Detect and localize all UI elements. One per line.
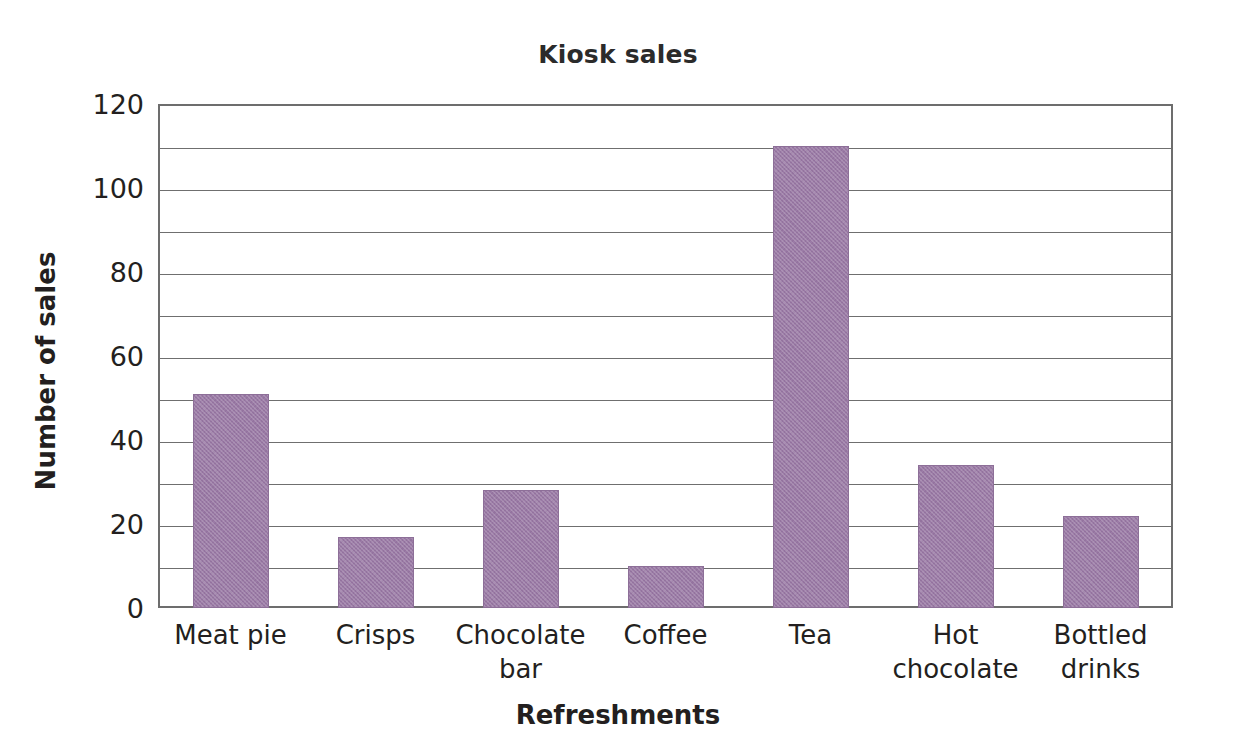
x-axis-tick-label: Meat pie xyxy=(158,618,303,652)
x-axis-tick-label-line: Crisps xyxy=(303,618,448,652)
bar-slot xyxy=(593,104,738,608)
y-axis-title: Number of sales xyxy=(31,221,61,521)
bar-slot xyxy=(158,104,303,608)
x-axis-tick-label-line: Coffee xyxy=(593,618,738,652)
x-axis-tick-label: Bottleddrinks xyxy=(1028,618,1173,686)
bar-slot xyxy=(1028,104,1173,608)
bar-slot xyxy=(448,104,593,608)
x-axis-tick-labels: Meat pieCrispsChocolatebarCoffeeTeaHotch… xyxy=(158,618,1173,694)
bar[interactable] xyxy=(773,146,849,608)
x-axis-tick-label-line: bar xyxy=(448,652,593,686)
x-axis-tick-label: Crisps xyxy=(303,618,448,652)
bar[interactable] xyxy=(193,394,269,608)
bar[interactable] xyxy=(483,490,559,608)
y-axis-tick-label: 120 xyxy=(18,89,158,120)
y-axis-tick-label: 100 xyxy=(18,173,158,204)
x-axis-tick-label-line: chocolate xyxy=(883,652,1028,686)
chart-title: Kiosk sales xyxy=(0,40,1236,69)
bar-slot xyxy=(303,104,448,608)
x-axis-tick-label-line: Tea xyxy=(738,618,883,652)
x-axis-tick-label-line: Meat pie xyxy=(158,618,303,652)
bar[interactable] xyxy=(338,537,414,608)
bar-slot xyxy=(883,104,1028,608)
y-axis-tick-label: 0 xyxy=(18,593,158,624)
bar[interactable] xyxy=(1063,516,1139,608)
y-axis-tick-labels: 020406080100120 xyxy=(0,104,158,608)
x-axis-tick-label-line: drinks xyxy=(1028,652,1173,686)
x-axis-tick-label-line: Hot xyxy=(883,618,1028,652)
x-axis-tick-label: Coffee xyxy=(593,618,738,652)
x-axis-title: Refreshments xyxy=(0,700,1236,730)
bars-group xyxy=(158,104,1173,608)
x-axis-tick-label: Chocolatebar xyxy=(448,618,593,686)
bar-slot xyxy=(738,104,883,608)
x-axis-tick-label: Tea xyxy=(738,618,883,652)
bar[interactable] xyxy=(628,566,704,608)
bar[interactable] xyxy=(918,465,994,608)
x-axis-tick-label: Hotchocolate xyxy=(883,618,1028,686)
x-axis-tick-label-line: Bottled xyxy=(1028,618,1173,652)
bar-chart: Kiosk sales 020406080100120 Number of sa… xyxy=(0,0,1236,756)
x-axis-tick-label-line: Chocolate xyxy=(448,618,593,652)
